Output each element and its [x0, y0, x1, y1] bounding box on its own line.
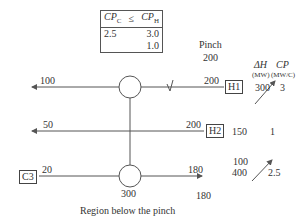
- h2-outlet-temp: 50: [43, 120, 53, 130]
- le-operator: ≤: [125, 11, 137, 28]
- cp-rule-table: CPC ≤ CPH 2.5 3.0 1.0: [100, 10, 163, 53]
- h2-inlet-temp: 200: [186, 120, 201, 130]
- stream-label-h1: H1: [225, 80, 243, 94]
- exchanger-cold-side: [119, 165, 141, 187]
- h1-outlet-temp: 100: [40, 76, 55, 86]
- h1-inlet-temp: 200: [204, 76, 219, 86]
- cp-hot-value: 3.0: [137, 28, 162, 41]
- c3-dh-old: 400: [232, 168, 247, 178]
- cp-column-unit: (MW/C): [271, 72, 295, 79]
- cp-cold-value: 2.5: [101, 28, 126, 41]
- pinch-temperature: 200: [203, 53, 218, 63]
- c3-dh-new: 100: [233, 157, 248, 167]
- h1-cp: 3: [280, 83, 285, 93]
- cp-hot-header: CPH: [137, 11, 162, 28]
- h2-dh: 150: [232, 127, 247, 137]
- exchanger-duty: 300: [121, 189, 136, 199]
- c3-outlet-temp: 180: [188, 165, 203, 175]
- dh-column-header: ΔH: [254, 60, 267, 70]
- exchanger-hot-side: [119, 76, 141, 98]
- cp-cold-value: [101, 40, 126, 53]
- dh-column-unit: (MW): [252, 72, 270, 79]
- cp-column-header: CP: [276, 60, 289, 70]
- c3-cp: 2.5: [268, 168, 281, 178]
- h1-dh: 300: [255, 83, 270, 93]
- stream-label-h2: H2: [206, 124, 224, 138]
- h2-cp: 1: [270, 127, 275, 137]
- stream-label-c3: C3: [19, 170, 37, 184]
- pinch-label: Pinch: [199, 40, 222, 50]
- c3-target-temp: 180: [196, 191, 211, 201]
- cp-cold-header: CPC: [101, 11, 126, 28]
- cp-hot-value: 1.0: [137, 40, 162, 53]
- check-mark-icon: [167, 80, 173, 91]
- diagram-caption: Region below the pinch: [80, 206, 175, 216]
- c3-inlet-temp: 20: [42, 165, 52, 175]
